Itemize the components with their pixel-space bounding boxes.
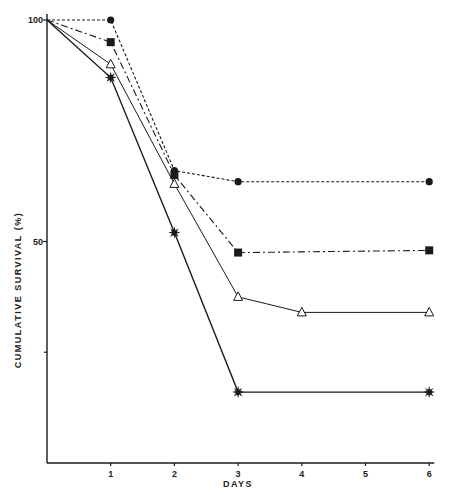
square-marker <box>234 249 242 257</box>
triangle-marker <box>234 292 243 301</box>
y-tick-label: 50 <box>33 237 43 247</box>
series-line <box>47 20 429 182</box>
star-marker <box>232 386 244 398</box>
data-series <box>47 16 435 398</box>
x-tick-label: 3 <box>236 469 241 479</box>
x-axis-label: DAYS <box>223 479 253 489</box>
series-triangle-open <box>47 20 434 316</box>
square-marker <box>107 38 115 46</box>
axes: 12345610050 <box>28 14 434 479</box>
triangle-marker <box>106 59 115 68</box>
circle-marker <box>426 178 433 185</box>
triangle-marker <box>425 307 434 316</box>
series-line <box>47 20 429 253</box>
survival-chart: 12345610050 DAYS CUMULATIVE SURVIVAL (%) <box>0 0 450 495</box>
x-tick-label: 1 <box>108 469 113 479</box>
series-circle <box>47 16 433 185</box>
star-marker <box>423 386 435 398</box>
circle-marker <box>235 178 242 185</box>
y-axis-label: CUMULATIVE SURVIVAL (%) <box>13 212 23 368</box>
x-tick-label: 6 <box>427 469 432 479</box>
square-marker <box>425 246 433 254</box>
series-star <box>47 20 435 398</box>
x-tick-label: 5 <box>363 469 368 479</box>
star-marker <box>168 227 180 239</box>
series-line <box>47 20 429 392</box>
triangle-marker <box>170 179 179 188</box>
series-square <box>47 20 433 257</box>
y-tick-label: 100 <box>28 15 43 25</box>
series-line <box>47 20 429 312</box>
x-tick-label: 4 <box>299 469 304 479</box>
circle-marker <box>107 16 114 23</box>
x-tick-label: 2 <box>172 469 177 479</box>
